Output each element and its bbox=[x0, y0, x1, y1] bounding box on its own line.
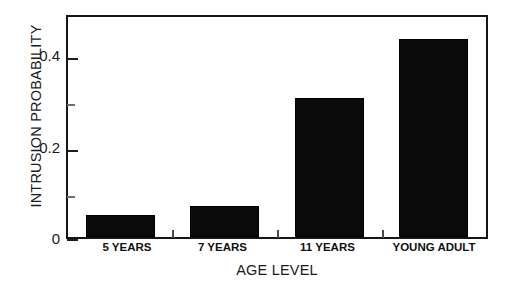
y-tick-label-0.4: 0.4 bbox=[20, 48, 60, 63]
bar-7-years bbox=[190, 206, 259, 237]
x-tick-label-5-years: 5 YEARS bbox=[75, 241, 179, 254]
y-tick-major-0.4 bbox=[67, 58, 78, 60]
y-axis-tick-labels: 0.4 0.2 0 bbox=[16, 0, 60, 289]
y-tick-label-0.2: 0.2 bbox=[20, 140, 60, 155]
y-tick-minor-0.1 bbox=[67, 196, 75, 198]
bar-5-years bbox=[86, 215, 155, 237]
plot-area bbox=[66, 15, 488, 239]
bar-chart-figure: INTRUSION PROBABILITY 0.4 0.2 0 bbox=[0, 0, 507, 289]
x-axis-title: AGE LEVEL bbox=[66, 262, 488, 278]
x-tick-label-young-adult: YOUNG ADULT bbox=[380, 241, 488, 254]
x-axis-tick-labels: 5 YEARS 7 YEARS 11 YEARS YOUNG ADULT bbox=[66, 241, 488, 259]
x-tick-separator-1 bbox=[172, 230, 174, 238]
x-tick-separator-2 bbox=[277, 230, 279, 238]
y-tick-label-0: 0 bbox=[20, 231, 60, 246]
bar-young-adult bbox=[399, 39, 468, 237]
y-tick-minor-0.3 bbox=[67, 104, 75, 106]
x-tick-label-7-years: 7 YEARS bbox=[170, 241, 275, 254]
bar-11-years bbox=[295, 98, 364, 237]
y-tick-major-0.2 bbox=[67, 150, 78, 152]
plot-inner bbox=[68, 17, 486, 237]
x-tick-separator-3 bbox=[382, 230, 384, 238]
x-tick-label-11-years: 11 YEARS bbox=[275, 241, 380, 254]
